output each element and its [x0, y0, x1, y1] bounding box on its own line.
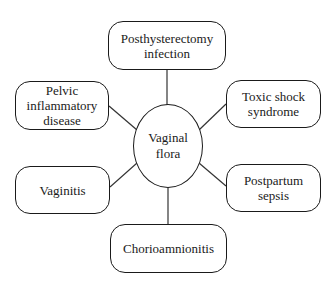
- center-label: Vaginal flora: [148, 130, 188, 162]
- node-label: Vaginitis: [39, 183, 85, 198]
- node-pelvic-inflammatory-disease: Pelvic inflammatory disease: [15, 81, 109, 130]
- node-chorioamnionitis: Chorioamnionitis: [110, 224, 227, 273]
- node-toxic-shock-syndrome: Toxic shock syndrome: [226, 80, 321, 128]
- edge-tss: [199, 104, 226, 130]
- node-label: Posthysterectomy infection: [121, 31, 213, 61]
- edge-vaginitis: [110, 163, 137, 187]
- center-node-vaginal-flora: Vaginal flora: [133, 104, 203, 188]
- edge-postpartum: [199, 163, 226, 186]
- node-label: Toxic shock syndrome: [242, 89, 305, 119]
- node-label: Pelvic inflammatory disease: [27, 83, 98, 128]
- edge-pid: [109, 106, 137, 130]
- node-postpartum-sepsis: Postpartum sepsis: [226, 164, 321, 212]
- node-label: Postpartum sepsis: [244, 173, 303, 203]
- node-label: Chorioamnionitis: [123, 241, 214, 256]
- node-vaginitis: Vaginitis: [15, 166, 110, 214]
- node-posthysterectomy-infection: Posthysterectomy infection: [108, 21, 226, 70]
